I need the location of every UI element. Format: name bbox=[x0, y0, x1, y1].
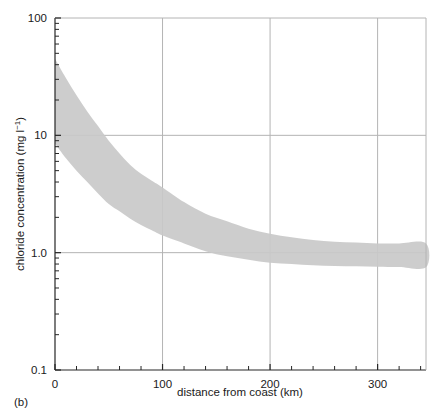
x-tick-label-3: 300 bbox=[368, 378, 387, 390]
x-tick-label-0: 0 bbox=[52, 378, 58, 390]
y-tick-label-1: 1.0 bbox=[31, 247, 47, 259]
panel-label: (b) bbox=[14, 396, 28, 408]
x-tick-label-1: 100 bbox=[153, 378, 172, 390]
figure-panel-b: 01002003000.11.010100 distance from coas… bbox=[0, 0, 440, 418]
x-axis-title: distance from coast (km) bbox=[177, 386, 303, 398]
y-tick-label-2: 10 bbox=[34, 129, 47, 141]
y-axis-title-group: chloride concentration (mg l−1) bbox=[13, 117, 26, 271]
y-tick-label-0: 0.1 bbox=[31, 364, 47, 376]
y-axis-title-main: chloride concentration (mg l bbox=[14, 130, 26, 271]
chloride-concentration-chart: 01002003000.11.010100 distance from coas… bbox=[0, 0, 440, 418]
y-axis-title-suffix: ) bbox=[14, 117, 26, 121]
y-tick-label-3: 100 bbox=[28, 12, 47, 24]
y-axis-title: chloride concentration (mg l−1) bbox=[13, 117, 26, 271]
